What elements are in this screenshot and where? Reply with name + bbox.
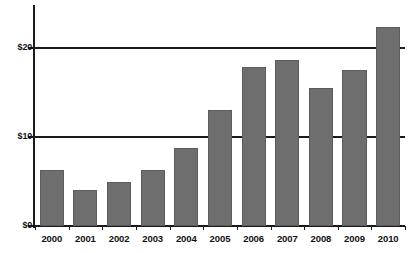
x-tick-2004 bbox=[203, 226, 204, 230]
x-tick-start bbox=[35, 226, 36, 230]
x-axis-label-2003: 2003 bbox=[136, 233, 170, 244]
bar-chart: $20 $10 $0 20002001200220032004200520062… bbox=[0, 0, 411, 253]
bar-2003 bbox=[141, 170, 165, 226]
bar-2009 bbox=[342, 70, 366, 226]
x-tick-2005 bbox=[237, 226, 238, 230]
x-axis-label-2002: 2002 bbox=[102, 233, 136, 244]
bar-2005 bbox=[208, 110, 232, 226]
x-tick-2009 bbox=[371, 226, 372, 230]
x-axis-label-2010: 2010 bbox=[371, 233, 405, 244]
bar-2008 bbox=[309, 88, 333, 226]
bar-2001 bbox=[73, 190, 97, 226]
x-tick-2010 bbox=[405, 226, 406, 230]
bar-2000 bbox=[40, 170, 64, 226]
bar-2002 bbox=[107, 182, 131, 226]
x-axis-label-2009: 2009 bbox=[338, 233, 372, 244]
x-tick-2007 bbox=[304, 226, 305, 230]
x-axis-label-2005: 2005 bbox=[203, 233, 237, 244]
bar-2006 bbox=[242, 67, 266, 226]
x-axis-label-2007: 2007 bbox=[271, 233, 305, 244]
x-tick-2006 bbox=[271, 226, 272, 230]
x-tick-2001 bbox=[102, 226, 103, 230]
x-axis-label-2006: 2006 bbox=[237, 233, 271, 244]
x-tick-2002 bbox=[136, 226, 137, 230]
x-tick-2008 bbox=[338, 226, 339, 230]
x-axis-label-2000: 2000 bbox=[35, 233, 69, 244]
x-axis-label-2001: 2001 bbox=[69, 233, 103, 244]
bar-2004 bbox=[174, 148, 198, 226]
bar-2010 bbox=[376, 27, 400, 226]
x-tick-2000 bbox=[69, 226, 70, 230]
bar-2007 bbox=[275, 60, 299, 226]
x-tick-2003 bbox=[170, 226, 171, 230]
x-axis-label-2008: 2008 bbox=[304, 233, 338, 244]
x-axis-label-2004: 2004 bbox=[170, 233, 204, 244]
bars-layer: 2000200120022003200420052006200720082009… bbox=[0, 0, 411, 253]
